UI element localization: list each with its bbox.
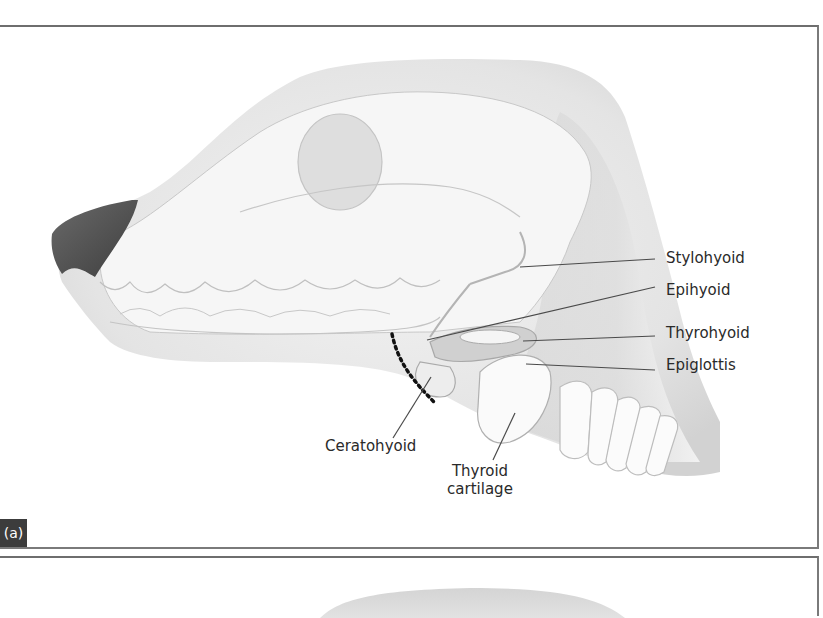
label-epiglottis: Epiglottis	[666, 356, 736, 374]
label-thyroid-line2: cartilage	[440, 480, 520, 498]
figure-panel-a: Stylohyoid Epihyoid Thyrohyoid Epiglotti…	[0, 25, 819, 549]
figure-panel-b	[0, 556, 819, 616]
head-silhouette-b	[320, 588, 625, 618]
label-stylohyoid: Stylohyoid	[666, 249, 745, 267]
label-ceratohyoid: Ceratohyoid	[325, 437, 416, 455]
label-thyrohyoid: Thyrohyoid	[666, 324, 750, 342]
panel-badge-a: (a)	[0, 519, 27, 547]
label-thyroid-cartilage: Thyroid cartilage	[440, 462, 520, 498]
eye-orbit	[298, 114, 382, 210]
label-thyroid-line1: Thyroid	[440, 462, 520, 480]
thyrohyoid-bone	[460, 330, 520, 344]
panel-b-illustration-top	[0, 558, 819, 618]
label-epihyoid: Epihyoid	[666, 281, 730, 299]
